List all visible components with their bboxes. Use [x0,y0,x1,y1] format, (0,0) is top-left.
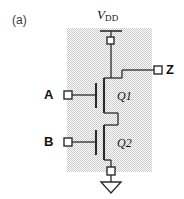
panel-label: (a) [12,14,27,26]
output-z-label: Z [166,63,174,76]
transistor-q2-label: Q2 [117,137,132,149]
vdd-terminal[interactable] [107,37,114,44]
input-a-label: A [44,88,53,101]
ground-terminal[interactable] [107,167,115,175]
transistor-q1-label: Q1 [117,90,132,102]
vdd-label: VDD [97,8,118,23]
shaded-region [67,28,152,172]
schematic-canvas [0,0,184,199]
input-a-terminal[interactable] [64,91,72,99]
input-b-label: B [44,135,53,148]
input-b-terminal[interactable] [64,138,72,146]
vdd-label-main: V [97,7,105,22]
ground-symbol-icon [101,182,121,193]
vdd-label-subscript: DD [105,13,118,23]
output-z-terminal[interactable] [154,66,162,74]
circuit-figure: (a) VDD A B Z Q1 Q2 [0,0,184,199]
